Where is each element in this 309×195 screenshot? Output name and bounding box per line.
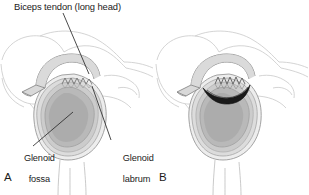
panel-a: Biceps tendon (long head) Glenoid fossa …	[0, 0, 154, 195]
glenoid-fossa-label: Glenoid fossa	[4, 142, 60, 195]
biceps-tendon-label: Biceps tendon (long head)	[14, 2, 121, 13]
panel-letter-a: A	[4, 171, 12, 183]
glenoid-labrum-label: Glenoid labrum	[108, 142, 154, 195]
leader-line-biceps-tendon	[63, 13, 89, 74]
glenoid-labrum-label-line2: labrum	[123, 174, 150, 184]
glenoid-labrum-label-line1: Glenoid	[123, 153, 154, 163]
panel-b-artwork	[155, 0, 309, 195]
panel-b: B	[155, 0, 309, 195]
glenoid-fossa-label-line2: fossa	[29, 174, 50, 184]
glenoid-fossa-label-line1: Glenoid	[24, 153, 55, 163]
humeral-neck-outlines-a	[58, 160, 86, 195]
shoulder-glenoid-figure: Biceps tendon (long head) Glenoid fossa …	[0, 0, 309, 195]
panel-letter-b: B	[159, 171, 167, 183]
humeral-neck-outlines-b	[213, 160, 241, 195]
